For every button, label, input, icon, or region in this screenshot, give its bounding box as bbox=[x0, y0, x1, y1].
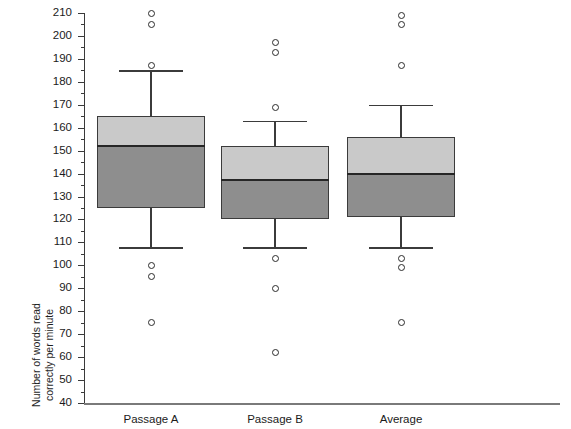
y-tick-label: 170 bbox=[32, 99, 72, 110]
y-tick-minor bbox=[81, 162, 85, 163]
y-tick-label: 90 bbox=[32, 282, 72, 293]
median-line bbox=[221, 179, 329, 181]
y-tick-major bbox=[78, 242, 85, 243]
y-tick-major bbox=[78, 82, 85, 83]
whisker-cap-upper bbox=[119, 70, 183, 72]
y-tick-minor bbox=[81, 93, 85, 94]
y-tick-minor bbox=[81, 323, 85, 324]
outlier-point[interactable] bbox=[148, 21, 155, 28]
y-tick-major bbox=[78, 59, 85, 60]
outlier-point[interactable] bbox=[272, 49, 279, 56]
median-line bbox=[347, 173, 455, 175]
y-tick-major bbox=[78, 288, 85, 289]
y-tick-minor bbox=[81, 392, 85, 393]
y-tick-minor bbox=[81, 139, 85, 140]
x-axis-line bbox=[84, 403, 560, 405]
y-tick-major bbox=[78, 105, 85, 106]
box-upper-quartile[interactable] bbox=[347, 137, 455, 174]
whisker-lower bbox=[400, 217, 402, 247]
y-tick-major bbox=[78, 311, 85, 312]
box-upper-quartile[interactable] bbox=[97, 116, 205, 146]
y-tick-minor bbox=[81, 277, 85, 278]
outlier-point[interactable] bbox=[272, 104, 279, 111]
outlier-point[interactable] bbox=[148, 273, 155, 280]
box-upper-quartile[interactable] bbox=[221, 146, 329, 180]
y-tick-minor bbox=[81, 185, 85, 186]
y-tick-major bbox=[78, 357, 85, 358]
outlier-point[interactable] bbox=[272, 39, 279, 46]
outlier-point[interactable] bbox=[398, 255, 405, 262]
y-tick-minor bbox=[81, 369, 85, 370]
y-tick-major bbox=[78, 174, 85, 175]
outlier-point[interactable] bbox=[148, 10, 155, 17]
y-tick-minor bbox=[81, 346, 85, 347]
y-tick-label: 210 bbox=[32, 7, 72, 18]
whisker-cap-lower bbox=[243, 247, 307, 249]
whisker-upper bbox=[150, 70, 152, 116]
y-tick-minor bbox=[81, 208, 85, 209]
y-tick-label: 100 bbox=[32, 259, 72, 270]
outlier-point[interactable] bbox=[148, 262, 155, 269]
y-tick-major bbox=[78, 380, 85, 381]
x-tick-label: Passage A bbox=[91, 413, 211, 425]
y-tick-label: 50 bbox=[32, 374, 72, 385]
outlier-point[interactable] bbox=[398, 319, 405, 326]
y-tick-label: 60 bbox=[32, 351, 72, 362]
y-tick-major bbox=[78, 13, 85, 14]
y-tick-label: 180 bbox=[32, 76, 72, 87]
outlier-point[interactable] bbox=[398, 264, 405, 271]
y-tick-major bbox=[78, 128, 85, 129]
whisker-cap-lower bbox=[369, 247, 433, 249]
y-tick-label: 160 bbox=[32, 122, 72, 133]
x-tick-label: Passage B bbox=[215, 413, 335, 425]
y-tick-minor bbox=[81, 231, 85, 232]
x-tick-label: Average bbox=[341, 413, 461, 425]
outlier-point[interactable] bbox=[398, 12, 405, 19]
y-tick-major bbox=[78, 151, 85, 152]
y-tick-minor bbox=[81, 300, 85, 301]
y-tick-minor bbox=[81, 24, 85, 25]
outlier-point[interactable] bbox=[398, 62, 405, 69]
whisker-upper bbox=[400, 105, 402, 137]
y-tick-minor bbox=[81, 116, 85, 117]
whisker-cap-upper bbox=[369, 105, 433, 107]
box-plot-chart: Number of words readcorrectly per minute… bbox=[0, 0, 571, 429]
y-tick-major bbox=[78, 334, 85, 335]
y-tick-major bbox=[78, 36, 85, 37]
y-tick-label: 120 bbox=[32, 213, 72, 224]
outlier-point[interactable] bbox=[148, 62, 155, 69]
y-tick-minor bbox=[81, 47, 85, 48]
y-tick-label: 140 bbox=[32, 168, 72, 179]
y-tick-label: 200 bbox=[32, 30, 72, 41]
y-tick-label: 150 bbox=[32, 145, 72, 156]
whisker-cap-upper bbox=[243, 121, 307, 123]
y-tick-label: 190 bbox=[32, 53, 72, 64]
whisker-upper bbox=[274, 121, 276, 146]
y-tick-label: 70 bbox=[32, 328, 72, 339]
y-tick-major bbox=[78, 219, 85, 220]
box-lower-quartile[interactable] bbox=[97, 146, 205, 208]
outlier-point[interactable] bbox=[148, 319, 155, 326]
y-tick-major bbox=[78, 197, 85, 198]
whisker-lower bbox=[274, 219, 276, 247]
outlier-point[interactable] bbox=[272, 285, 279, 292]
y-tick-label: 40 bbox=[32, 397, 72, 408]
box-lower-quartile[interactable] bbox=[347, 174, 455, 218]
box-lower-quartile[interactable] bbox=[221, 180, 329, 219]
outlier-point[interactable] bbox=[272, 255, 279, 262]
y-tick-minor bbox=[81, 254, 85, 255]
y-tick-minor bbox=[81, 70, 85, 71]
whisker-cap-lower bbox=[119, 247, 183, 249]
outlier-point[interactable] bbox=[272, 349, 279, 356]
y-tick-major bbox=[78, 265, 85, 266]
y-tick-label: 110 bbox=[32, 236, 72, 247]
y-tick-label: 80 bbox=[32, 305, 72, 316]
median-line bbox=[97, 145, 205, 147]
whisker-lower bbox=[150, 208, 152, 247]
outlier-point[interactable] bbox=[398, 21, 405, 28]
y-tick-label: 130 bbox=[32, 191, 72, 202]
